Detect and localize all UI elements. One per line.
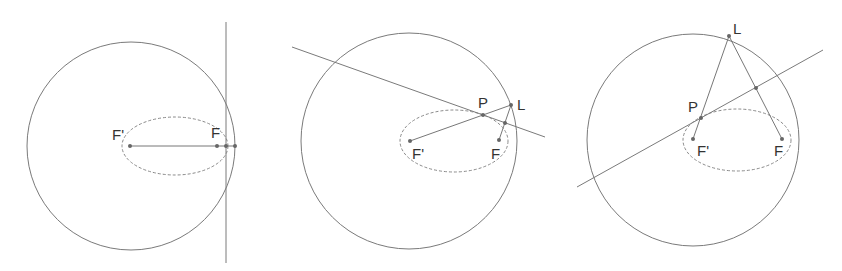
point-l — [727, 34, 731, 38]
label-f-prime: F' — [697, 142, 709, 159]
tangent-line — [292, 47, 545, 137]
focus-f-point — [780, 137, 784, 141]
midpoint — [503, 121, 507, 125]
label-p: P — [478, 94, 488, 111]
point-p — [699, 116, 703, 120]
label-l: L — [733, 20, 741, 37]
panel-3: L P F' F — [577, 20, 823, 246]
label-f: F — [774, 142, 783, 159]
label-f-prime: F' — [112, 126, 124, 143]
focus-f-prime-point — [691, 137, 695, 141]
segment-l-f-prime — [693, 36, 729, 139]
label-f: F — [211, 124, 220, 141]
panel-2: P L F' F — [292, 33, 545, 249]
label-f-prime: F' — [412, 145, 424, 162]
midpoint — [754, 86, 758, 90]
point-l — [509, 103, 513, 107]
panel-1: F' F — [27, 22, 237, 263]
focus-f-prime-point — [128, 144, 132, 148]
ellipse — [400, 110, 508, 172]
label-f: F — [491, 145, 500, 162]
focus-f-prime-point — [408, 139, 412, 143]
vertex-point — [224, 144, 228, 148]
ellipse-construction-diagram: F' F P L F' F L P F' F — [0, 0, 842, 271]
focus-f-point — [215, 144, 219, 148]
point-p — [481, 113, 485, 117]
circle-point — [233, 144, 237, 148]
focus-f-point — [497, 138, 501, 142]
label-p: P — [688, 98, 698, 115]
label-l: L — [517, 96, 525, 113]
